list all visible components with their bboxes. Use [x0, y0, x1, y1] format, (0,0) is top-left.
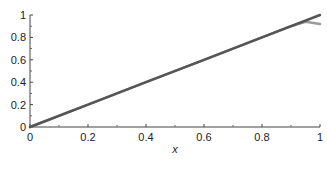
line-chart: 00.20.40.60.8100.20.40.60.81 x — [0, 0, 327, 170]
x-tick-label: 0 — [27, 131, 33, 143]
y-tick-label: 0 — [20, 121, 26, 133]
x-tick-label: 0.2 — [80, 131, 95, 143]
series-group — [30, 15, 320, 127]
x-tick-label: 1 — [317, 131, 323, 143]
y-tick-label: 1 — [20, 9, 26, 21]
axes: 00.20.40.60.8100.20.40.60.81 — [11, 9, 323, 143]
x-axis-label: x — [171, 143, 178, 155]
y-tick-label: 0.8 — [11, 31, 26, 43]
y-tick-label: 0.2 — [11, 99, 26, 111]
x-tick-label: 0.8 — [254, 131, 269, 143]
y-tick-label: 0.4 — [11, 76, 26, 88]
x-tick-label: 0.4 — [138, 131, 153, 143]
series-line-exact — [30, 15, 320, 127]
x-tick-label: 0.6 — [196, 131, 211, 143]
y-tick-label: 0.6 — [11, 54, 26, 66]
